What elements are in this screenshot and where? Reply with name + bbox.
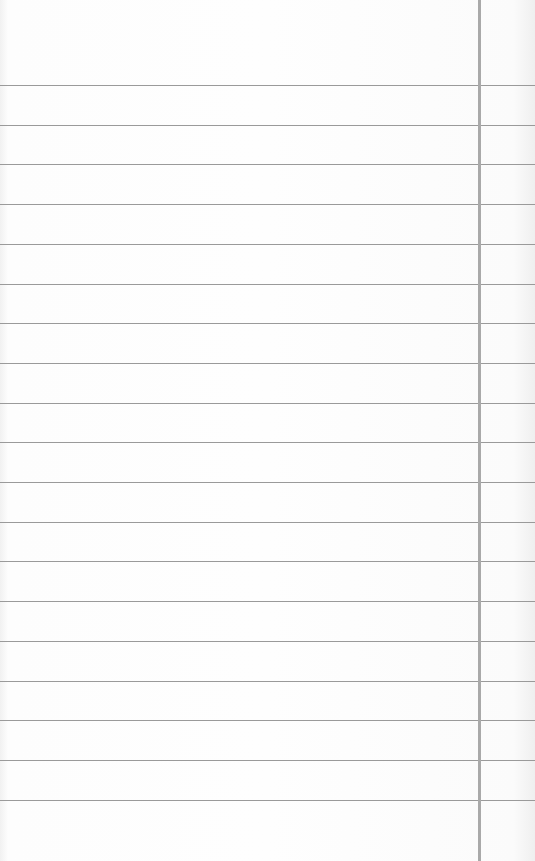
ruled-line [0, 522, 535, 523]
ruled-line [0, 601, 535, 602]
ruled-line [0, 482, 535, 483]
ruled-line [0, 85, 535, 86]
margin-line [478, 0, 481, 861]
lined-paper [0, 0, 535, 861]
ruled-line [0, 561, 535, 562]
ruled-line [0, 681, 535, 682]
ruled-line [0, 403, 535, 404]
ruled-line [0, 284, 535, 285]
ruled-line [0, 760, 535, 761]
ruled-line [0, 244, 535, 245]
ruled-line [0, 204, 535, 205]
ruled-line [0, 720, 535, 721]
ruled-line [0, 125, 535, 126]
ruled-line [0, 363, 535, 364]
ruled-line [0, 323, 535, 324]
ruled-line [0, 641, 535, 642]
ruled-line [0, 800, 535, 801]
ruled-line [0, 164, 535, 165]
ruled-line [0, 442, 535, 443]
